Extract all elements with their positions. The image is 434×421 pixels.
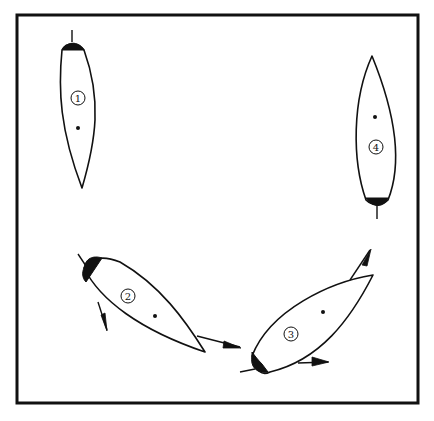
boat-label: 1: [75, 93, 81, 104]
center-dot: [153, 314, 157, 318]
boat-1: 1: [60, 30, 95, 188]
hull: [84, 258, 205, 352]
arrow-down-icon: [101, 313, 107, 331]
boat-label: 3: [288, 329, 294, 340]
arrow-up-icon: [362, 249, 371, 266]
center-dot: [373, 115, 377, 119]
hull: [60, 44, 95, 188]
arrow-right-icon: [223, 341, 241, 348]
center-dot: [76, 126, 80, 130]
stern: [366, 198, 388, 206]
arrow-right-icon: [312, 357, 329, 366]
boat-3: 3: [240, 249, 373, 373]
center-dot: [321, 310, 325, 314]
boat-label: 2: [125, 291, 131, 302]
hull: [356, 56, 396, 205]
boat-4: 4: [356, 56, 396, 219]
boat-2: 2: [78, 254, 241, 352]
boat-label: 4: [373, 142, 379, 153]
diagram-canvas: 1 4 2 3: [0, 0, 434, 421]
stern: [62, 43, 84, 50]
rudder-line: [240, 369, 255, 372]
